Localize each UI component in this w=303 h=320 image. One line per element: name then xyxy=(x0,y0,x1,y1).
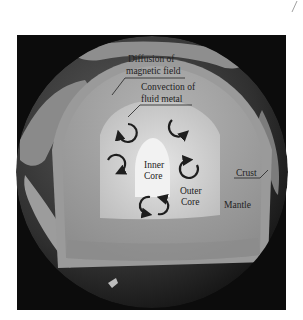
corner-stroke-mark xyxy=(292,1,297,12)
label-crust: Crust xyxy=(236,168,257,178)
label-diffusion-line2: magnetic field xyxy=(126,66,181,76)
label-inner-core-line1: Inner xyxy=(144,160,165,170)
earth-cutaway-diagram: Diffusion of magnetic field Convection o… xyxy=(0,0,303,320)
label-mantle: Mantle xyxy=(224,200,251,210)
label-convection-line1: Convection of xyxy=(141,82,196,92)
label-inner-core-line2: Core xyxy=(144,171,162,181)
label-outer-core-line2: Core xyxy=(181,197,199,207)
label-outer-core-line1: Outer xyxy=(180,186,202,196)
label-convection-line2: fluid metal xyxy=(141,94,183,104)
label-diffusion-line1: Diffusion of xyxy=(128,54,175,64)
